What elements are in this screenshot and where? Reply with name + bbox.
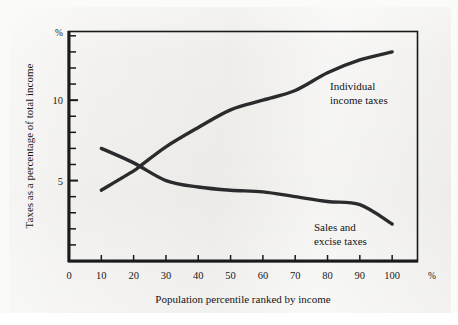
line-chart: 510 0102030405060708090100 % % Individua… (0, 0, 458, 325)
x-axis-unit-label: % (428, 271, 436, 281)
x-axis-tick-label: 60 (258, 270, 269, 281)
x-axis-tick-label: 50 (225, 270, 236, 281)
x-axis-tick-label: 40 (193, 270, 204, 281)
x-axis-tick-label: 90 (355, 270, 366, 281)
x-axis-tick-labels: 0102030405060708090100 (66, 270, 400, 281)
x-axis-tick-label: 100 (384, 270, 400, 281)
series-line-sales-excise-taxes (101, 148, 392, 224)
y-axis-tick-label: 10 (53, 95, 64, 106)
x-axis-title: Population percentile ranked by income (155, 293, 330, 305)
annotation-individual-income-taxes-line2: income taxes (330, 94, 388, 106)
x-axis-tick-label: 10 (96, 270, 107, 281)
plot-frame (69, 32, 418, 262)
y-axis-unit-label: % (55, 28, 63, 38)
y-axis-tick-labels: 510 (53, 95, 64, 186)
chart-figure: 510 0102030405060708090100 % % Individua… (0, 0, 458, 325)
y-axis-title: Taxes as a percentage of total income (23, 64, 35, 229)
x-axis-tick-label: 80 (322, 270, 333, 281)
annotation-individual-income-taxes-line1: Individual (330, 80, 375, 92)
annotation-sales-excise-taxes-line2: excise taxes (314, 235, 367, 247)
annotation-sales-excise-taxes-line1: Sales and (314, 221, 356, 233)
x-axis-tick-label: 20 (128, 270, 139, 281)
x-axis-tick-label: 0 (66, 270, 71, 281)
y-axis-tick-label: 5 (58, 176, 63, 187)
x-axis-tick-label: 30 (161, 270, 172, 281)
x-axis-tick-label: 70 (290, 270, 301, 281)
